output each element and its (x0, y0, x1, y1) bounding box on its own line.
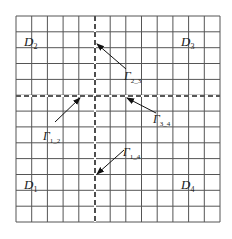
domain-label-d2: D2 (23, 34, 37, 51)
domain-label-d2-subscript: 2 (33, 42, 37, 51)
domain-label-d2-letter: D (23, 34, 34, 49)
labels: D1D2D3D4Γ2_3Γ3_4Γ1_2Γ1_4 (23, 34, 194, 194)
domain-decomposition-diagram: D1D2D3D4Γ2_3Γ3_4Γ1_2Γ1_4 (0, 0, 232, 239)
domain-label-d4: D4 (180, 177, 194, 194)
domain-label-d1: D1 (23, 177, 37, 194)
interface-label-gamma-2-3: Γ2_3 (123, 69, 142, 85)
arrow-icon (55, 98, 80, 122)
domain-label-d3-subscript: 3 (190, 42, 194, 51)
domain-label-d3-letter: D (180, 34, 191, 49)
domain-label-d1-subscript: 1 (33, 185, 37, 194)
domain-label-d4-letter: D (180, 177, 191, 192)
interface-label-gamma-3-4: Γ3_4 (152, 112, 171, 128)
interface-label-gamma-1-4-subscript: 1_4 (130, 153, 141, 161)
domain-label-d4-subscript: 4 (190, 185, 194, 194)
domain-label-d3: D3 (180, 34, 194, 51)
interface-label-gamma-1-2-subscript: 1_2 (50, 137, 61, 145)
domain-label-d1-letter: D (23, 177, 34, 192)
interface-label-gamma-3-4-subscript: 3_4 (160, 120, 171, 128)
interface-label-gamma-2-3-subscript: 2_3 (131, 77, 142, 85)
interface-label-gamma-1-2: Γ1_2 (42, 129, 61, 145)
interface-label-gamma-1-4: Γ1_4 (122, 145, 141, 161)
